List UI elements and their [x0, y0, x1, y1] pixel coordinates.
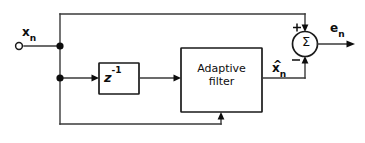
adaptive-filter-diagram: xn z-1 Adaptive filter ^ xn Σ en — [0, 0, 365, 143]
error-signal-base: e — [330, 21, 338, 35]
arrowhead-into-filter — [174, 75, 182, 82]
arrowhead-into-delay — [92, 75, 100, 82]
arrowhead-into-filter-adapt — [218, 112, 225, 120]
adaptive-filter-label-line1: Adaptive — [197, 62, 246, 75]
input-signal-base: x — [22, 25, 30, 39]
delay-block-label: z-1 — [104, 70, 122, 84]
input-signal-subscript: n — [30, 33, 36, 43]
junction-dot-upper — [56, 42, 63, 49]
delay-symbol-base: z — [104, 70, 112, 85]
error-signal-subscript: n — [338, 29, 344, 39]
input-signal-label: xn — [22, 26, 36, 41]
junction-dot-lower — [56, 74, 63, 81]
arrowhead-error-output — [347, 40, 356, 47]
adaptive-filter-label-line2: filter — [209, 75, 235, 88]
estimate-signal-base: x — [272, 61, 280, 75]
estimate-signal-subscript: n — [280, 69, 286, 79]
adaptive-filter-label: Adaptive filter — [181, 62, 262, 88]
error-signal-label: en — [330, 22, 345, 37]
sigma-icon: Σ — [293, 34, 319, 49]
estimate-signal-label: xn — [272, 62, 286, 77]
delay-symbol-exponent: -1 — [112, 65, 122, 75]
input-terminal-ring — [16, 43, 23, 50]
